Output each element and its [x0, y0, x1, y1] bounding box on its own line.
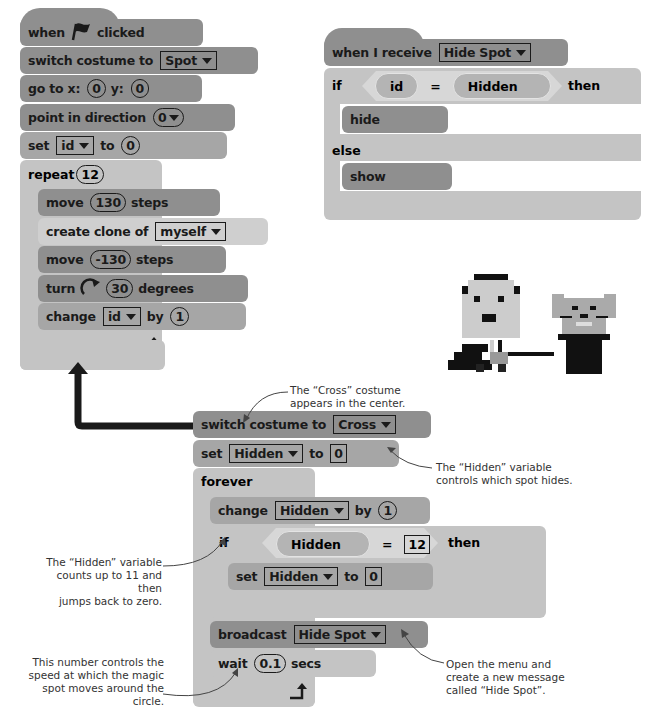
callout-lines — [0, 0, 659, 728]
